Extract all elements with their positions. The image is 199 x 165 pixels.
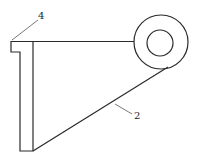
leader-line-2 — [115, 104, 132, 114]
leader-line-4 — [12, 20, 38, 40]
diagonal-brace — [33, 67, 168, 151]
vertical-post — [11, 41, 33, 151]
ring-inner — [147, 30, 173, 56]
part-label-4: 4 — [38, 10, 44, 21]
bracket-diagram: 4 2 — [0, 0, 199, 165]
ring-outer — [134, 15, 188, 69]
part-label-2: 2 — [134, 110, 140, 121]
